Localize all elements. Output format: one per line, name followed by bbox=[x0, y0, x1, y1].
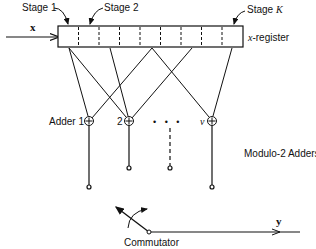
adder-2-label: 2 bbox=[117, 116, 123, 127]
adder-1 bbox=[85, 117, 94, 126]
stage-2-label: Stage 2 bbox=[104, 2, 139, 13]
output-label: y bbox=[276, 215, 282, 227]
stage-1-label: Stage 1 bbox=[22, 2, 57, 13]
adder-1-label: Adder 1 bbox=[49, 116, 84, 127]
adders-caption: Modulo-2 Adders bbox=[244, 148, 316, 159]
commutator bbox=[116, 207, 151, 234]
stage-k-pointer bbox=[234, 11, 245, 24]
input-label: x bbox=[30, 21, 36, 33]
stage-2-pointer bbox=[90, 8, 103, 24]
convolutional-encoder-diagram: x x-register Stage 1 Stage 2 Stage K Add… bbox=[0, 0, 316, 249]
stage-k-label: Stage K bbox=[247, 4, 284, 15]
x-register bbox=[58, 26, 243, 47]
adder-ellipsis: • • • bbox=[153, 117, 182, 127]
register-label: x-register bbox=[247, 32, 290, 43]
adder-v bbox=[208, 117, 217, 126]
commutator-label: Commutator bbox=[124, 237, 180, 248]
adder-v-label: v bbox=[200, 116, 205, 127]
connection-lines bbox=[69, 48, 232, 118]
adder-outputs bbox=[87, 126, 214, 189]
adder-2 bbox=[125, 117, 134, 126]
